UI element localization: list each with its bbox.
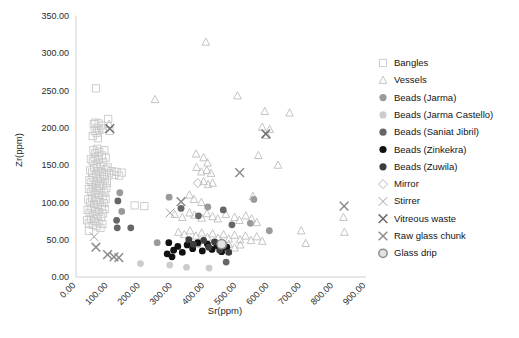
legend-item-beads-saniat-jibril[interactable]: Beads (Saniat Jibril): [379, 126, 479, 137]
legend-marker-icon: [379, 129, 386, 136]
data-point: [250, 196, 257, 203]
data-point: [166, 194, 173, 201]
data-point: [179, 249, 186, 256]
data-point: [166, 262, 173, 269]
legend-marker-icon: [379, 94, 386, 101]
data-point: [199, 248, 206, 255]
data-point: [266, 227, 273, 234]
x-axis-title: Sr(ppm): [208, 305, 242, 316]
legend-label: Stirrer: [394, 195, 420, 206]
scatter-chart: 0.0050.00100.00150.00200.00250.00300.003…: [0, 0, 519, 338]
data-point: [229, 221, 236, 228]
legend-label: Vessels: [394, 74, 427, 85]
data-point: [183, 264, 190, 271]
y-tick-label: 100.00: [41, 198, 69, 208]
data-point: [225, 249, 232, 256]
y-tick-label: 50.00: [46, 235, 69, 245]
legend-marker-icon: [379, 249, 387, 257]
data-point: [154, 239, 161, 246]
y-tick-label: 250.00: [41, 86, 69, 96]
legend-label: Vitreous waste: [394, 213, 456, 224]
legend-marker-icon: [379, 111, 386, 118]
y-axis-title: Zr(ppm): [13, 133, 24, 167]
legend-label: Beads (Zuwila): [394, 161, 457, 172]
series-glass-drip: [217, 240, 226, 249]
legend-label: Raw glass chunk: [394, 230, 466, 241]
legend-label: Beads (Saniat Jibril): [394, 126, 479, 137]
y-tick-label: 150.00: [41, 160, 69, 170]
data-point: [118, 208, 125, 215]
legend-label: Mirror: [394, 178, 419, 189]
data-point: [165, 239, 172, 246]
data-point: [220, 206, 227, 213]
y-tick-label: 0.00: [51, 272, 69, 282]
data-point: [137, 260, 144, 267]
data-point: [116, 189, 123, 196]
legend-label: Beads (Zinkekra): [394, 144, 466, 155]
data-point: [223, 259, 230, 266]
data-point: [190, 241, 197, 248]
data-point: [195, 212, 202, 219]
data-point: [127, 224, 134, 231]
data-point: [205, 244, 212, 251]
data-point: [204, 204, 211, 211]
data-point: [200, 237, 207, 244]
data-point: [217, 240, 226, 249]
legend-item-beads-jarma-castello[interactable]: Beads (Jarma Castello): [379, 109, 493, 120]
data-point: [174, 243, 181, 250]
data-point: [206, 265, 213, 272]
data-point: [114, 198, 121, 205]
y-tick-label: 300.00: [41, 48, 69, 58]
legend-label: Beads (Jarma): [394, 92, 456, 103]
legend-marker-icon: [379, 163, 386, 170]
data-point: [247, 220, 254, 227]
data-point: [113, 217, 120, 224]
y-tick-label: 350.00: [41, 11, 69, 21]
plot-canvas: 0.0050.00100.00150.00200.00250.00300.003…: [0, 0, 519, 338]
data-point: [114, 224, 121, 231]
legend-label: Glass drip: [394, 247, 437, 258]
legend-label: Bangles: [394, 57, 429, 68]
y-tick-label: 200.00: [41, 123, 69, 133]
data-point: [178, 205, 185, 212]
legend-marker-icon: [379, 146, 386, 153]
legend-label: Beads (Jarma Castello): [394, 109, 493, 120]
data-point: [169, 253, 176, 260]
